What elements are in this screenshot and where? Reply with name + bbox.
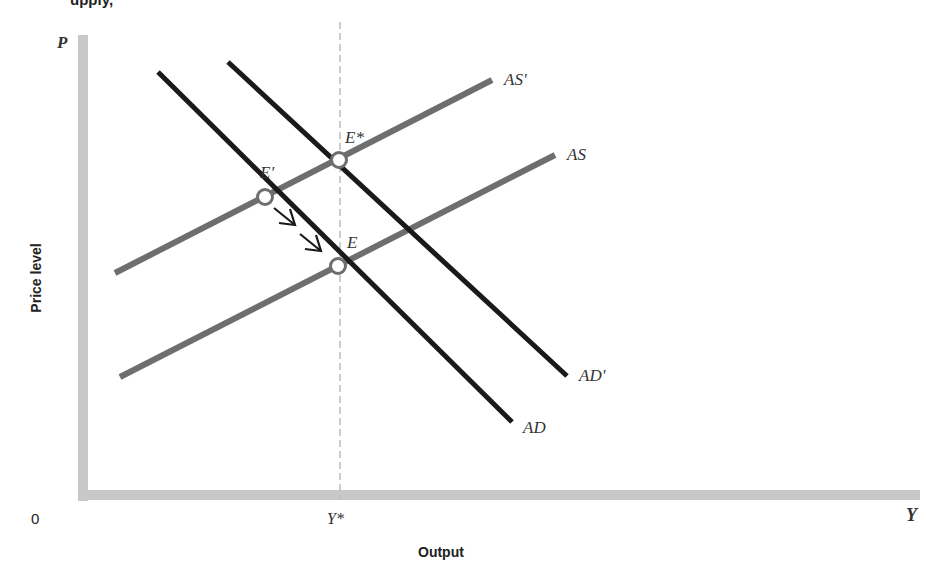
ad-prime-curve: [228, 62, 567, 376]
ad-curve: [158, 72, 512, 422]
as-prime-curve: [115, 80, 492, 273]
y-axis: [78, 35, 88, 501]
as-label: AS: [567, 145, 586, 165]
aggregate-supply-demand-diagram: upply, P Price level 0 Y* Y Output AS AS…: [0, 0, 942, 563]
y-axis-label: Price level: [28, 238, 44, 318]
diagram-canvas: [0, 0, 942, 563]
e-star-label: E*: [345, 128, 364, 148]
equilibrium-point-e-prime: [258, 190, 273, 205]
e-label: E: [347, 233, 357, 253]
equilibrium-point-e-star: [332, 153, 347, 168]
x-tick-y-star: Y*: [327, 510, 344, 528]
e-prime-label: E': [260, 163, 274, 183]
ad-label: AD: [523, 418, 546, 438]
equilibrium-point-e: [331, 259, 346, 274]
x-axis-label: Output: [418, 544, 464, 560]
as-prime-label: AS': [504, 70, 527, 90]
origin-label: 0: [31, 510, 39, 527]
x-axis-symbol: Y: [906, 505, 917, 526]
y-axis-symbol: P: [57, 33, 67, 53]
ad-prime-label: AD': [579, 366, 605, 386]
x-axis: [78, 490, 920, 500]
